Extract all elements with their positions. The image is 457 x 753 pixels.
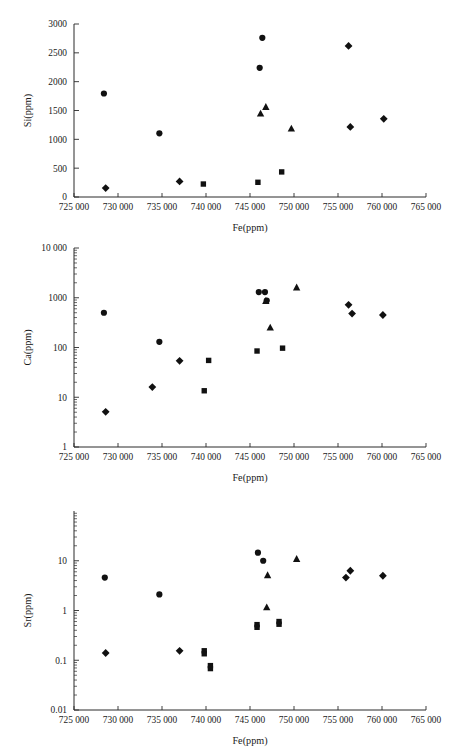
x-axis-title: Fe(ppm) [232,472,267,484]
y-tick-label: 100 [53,343,67,353]
data-point-diamond[interactable] [346,567,354,575]
data-point-square[interactable] [280,345,285,350]
x-tick-label: 735 000 [147,452,178,462]
data-point-diamond[interactable] [176,647,184,655]
data-point-square[interactable] [254,348,259,353]
x-tick-label: 730 000 [103,715,134,725]
data-point-diamond[interactable] [379,311,387,319]
data-point-diamond[interactable] [102,408,110,416]
data-point-triangle[interactable] [288,125,295,132]
data-point-square[interactable] [206,358,211,363]
y-tick-label: 1000 [48,293,67,303]
data-point-circle[interactable] [260,558,266,564]
data-point-circle[interactable] [259,35,265,41]
x-axis-title: Fe(ppm) [232,222,267,234]
x-tick-label: 735 000 [147,715,178,725]
y-tick-label: 2500 [48,48,67,58]
data-point-triangle[interactable] [262,103,269,110]
y-tick-label: 3000 [48,19,67,29]
data-point-triangle[interactable] [257,110,264,117]
x-tick-label: 740 000 [191,452,222,462]
chart-panel-ca: 725 000730 000735 000740 000745 000750 0… [0,240,457,490]
figure-page: 725 000730 000735 000740 000745 000750 0… [0,0,457,753]
data-point-diamond[interactable] [102,649,110,657]
x-tick-label: 765 000 [411,715,442,725]
x-tick-label: 750 000 [279,202,310,212]
data-point-diamond[interactable] [346,123,354,131]
data-point-square[interactable] [201,181,206,186]
x-tick-label: 745 000 [235,452,266,462]
y-tick-label: 1500 [48,106,67,116]
data-point-circle[interactable] [255,550,261,556]
data-point-circle[interactable] [156,130,162,136]
y-tick-label: 10 000 [41,243,67,253]
data-point-triangle[interactable] [267,324,274,331]
x-tick-label: 755 000 [323,715,354,725]
data-point-diamond[interactable] [148,383,156,391]
data-point-circle[interactable] [156,339,162,345]
data-point-square[interactable] [202,388,207,393]
data-point-circle[interactable] [257,65,263,71]
y-tick-label: 500 [53,164,67,174]
data-point-square[interactable] [255,180,260,185]
data-point-circle[interactable] [102,574,108,580]
data-point-diamond[interactable] [176,178,184,186]
data-point-diamond[interactable] [380,115,388,123]
data-point-diamond[interactable] [342,574,350,582]
x-tick-label: 735 000 [147,202,178,212]
data-point-square[interactable] [276,622,281,627]
x-tick-label: 750 000 [279,452,310,462]
y-axis-title: Ca(ppm) [22,329,34,365]
plot-area-sr: 725 000730 000735 000740 000745 000750 0… [0,490,457,753]
data-point-diamond[interactable] [102,184,110,192]
data-point-triangle[interactable] [264,571,271,578]
data-point-diamond[interactable] [348,310,356,318]
y-axis-title: Sr(ppm) [22,594,34,628]
plot-area-si: 725 000730 000735 000740 000745 000750 0… [0,0,457,240]
data-point-circle[interactable] [101,90,107,96]
x-axis-title: Fe(ppm) [232,735,267,747]
x-tick-label: 745 000 [235,715,266,725]
data-point-triangle[interactable] [293,555,300,562]
y-axis-title: Si(ppm) [22,94,34,127]
x-tick-label: 755 000 [323,452,354,462]
y-tick-label: 1 [62,606,67,616]
x-tick-label: 725 000 [59,202,90,212]
x-tick-label: 765 000 [411,452,442,462]
y-tick-label: 10 [58,556,68,566]
data-point-square[interactable] [254,625,259,630]
data-point-diamond[interactable] [176,357,184,365]
y-tick-label: 1 [62,442,67,452]
data-point-triangle[interactable] [293,284,300,291]
y-tick-label: 1000 [48,135,67,145]
x-tick-label: 760 000 [367,202,398,212]
y-tick-label: 0 [62,192,67,202]
data-point-triangle[interactable] [263,603,270,610]
x-tick-label: 725 000 [59,715,90,725]
data-point-circle[interactable] [156,591,162,597]
data-point-square[interactable] [202,651,207,656]
data-point-square[interactable] [208,666,213,671]
x-tick-label: 730 000 [103,452,134,462]
data-point-diamond[interactable] [379,572,387,580]
x-tick-label: 760 000 [367,715,398,725]
y-tick-label: 10 [58,393,68,403]
x-tick-label: 755 000 [323,202,354,212]
data-point-circle[interactable] [262,289,268,295]
x-tick-label: 740 000 [191,715,222,725]
y-tick-label: 2000 [48,77,67,87]
data-point-square[interactable] [279,169,284,174]
y-tick-label: 0.1 [55,656,67,666]
data-point-circle[interactable] [256,289,262,295]
chart-panel-sr: 725 000730 000735 000740 000745 000750 0… [0,490,457,753]
x-tick-label: 740 000 [191,202,222,212]
data-point-diamond[interactable] [345,301,353,309]
data-point-circle[interactable] [101,310,107,316]
data-point-diamond[interactable] [345,42,353,50]
plot-area-ca: 725 000730 000735 000740 000745 000750 0… [0,240,457,490]
x-tick-label: 745 000 [235,202,266,212]
y-tick-label: 0.01 [51,705,68,715]
x-tick-label: 750 000 [279,715,310,725]
x-tick-label: 765 000 [411,202,442,212]
x-tick-label: 760 000 [367,452,398,462]
